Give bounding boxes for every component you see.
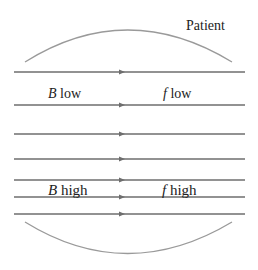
patient-label: Patient [186, 19, 225, 33]
b-var: B [48, 86, 57, 101]
low-word: low [60, 86, 81, 101]
arrow-icons [119, 70, 125, 217]
f-high-label: f high [162, 183, 197, 198]
arrow-right-icon [119, 195, 125, 200]
b-low-label: B low [48, 87, 81, 101]
arrow-right-icon [119, 70, 125, 75]
low-word: low [170, 86, 191, 101]
patient-bottom-arc [25, 222, 232, 254]
high-word: high [170, 182, 197, 198]
high-word: high [61, 182, 88, 198]
f-low-label: f low [163, 87, 191, 101]
arrow-right-icon [119, 132, 125, 137]
f-var: f [163, 86, 167, 101]
b-var: B [48, 182, 57, 198]
arrow-right-icon [119, 212, 125, 217]
patient-top-arc [25, 30, 232, 62]
arrow-right-icon [119, 103, 125, 108]
arrow-right-icon [119, 178, 125, 183]
diagram-canvas [0, 0, 258, 270]
arrow-right-icon [119, 157, 125, 162]
b-high-label: B high [48, 183, 88, 198]
f-var: f [162, 182, 166, 198]
